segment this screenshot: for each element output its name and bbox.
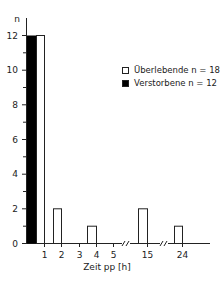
bar-survivors-4h bbox=[88, 226, 97, 243]
y-tick-label: 6 bbox=[12, 135, 18, 145]
y-axis-title: n bbox=[14, 14, 20, 24]
bar-survivors-1h bbox=[37, 36, 45, 244]
y-tick-label: 2 bbox=[12, 204, 18, 214]
y-tick-label: 12 bbox=[7, 31, 18, 41]
bar-survivors-2h bbox=[54, 209, 62, 244]
y-tick-label: 0 bbox=[12, 239, 18, 249]
y-tick-label: 10 bbox=[7, 65, 19, 75]
y-ticks bbox=[22, 36, 26, 244]
legend-item-deceased: Verstorbene n = 12 bbox=[122, 77, 220, 90]
x-tick-label: 1 bbox=[42, 250, 48, 260]
x-tick-label: 2 bbox=[59, 250, 65, 260]
bar-survivors-24h bbox=[175, 226, 183, 243]
x-tick-label: 15 bbox=[142, 250, 153, 260]
legend-item-survivors: Überlebende n = 18 bbox=[122, 64, 220, 77]
black-swatch-icon bbox=[122, 80, 129, 87]
axis-break-1 bbox=[122, 241, 129, 246]
axis-break-2 bbox=[160, 241, 167, 246]
legend-label-survivors: Überlebende n = 18 bbox=[134, 64, 220, 77]
bar-deceased-1h bbox=[27, 36, 36, 244]
x-tick-label: 5 bbox=[111, 250, 117, 260]
x-tick-label: 3 bbox=[77, 250, 83, 260]
y-tick-label: 8 bbox=[12, 100, 18, 110]
legend-label-deceased: Verstorbene n = 12 bbox=[134, 77, 217, 90]
bar-chart: 0 2 4 6 8 10 12 n 1 2 3 4 5 15 24 Zeit p… bbox=[0, 0, 221, 287]
legend: Überlebende n = 18 Verstorbene n = 12 bbox=[122, 64, 220, 90]
white-swatch-icon bbox=[122, 67, 129, 74]
y-tick-label: 4 bbox=[12, 169, 18, 179]
x-axis-title: Zeit pp [h] bbox=[83, 262, 131, 272]
x-ticks bbox=[45, 244, 183, 248]
x-tick-label: 24 bbox=[177, 250, 189, 260]
bar-survivors-15h bbox=[139, 209, 148, 244]
x-tick-label: 4 bbox=[94, 250, 100, 260]
